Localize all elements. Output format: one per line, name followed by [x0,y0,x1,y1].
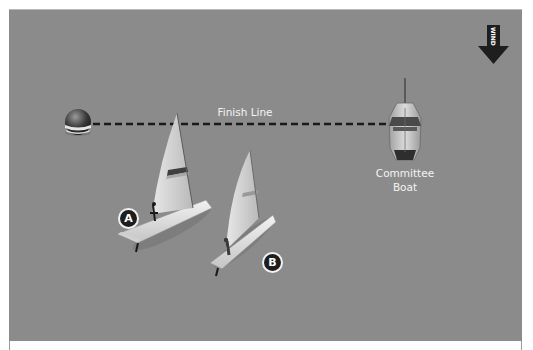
wind-label: WIND [486,26,500,46]
boat-b-badge: B [262,252,283,273]
buoy-icon [65,109,91,136]
race-scene [0,0,533,350]
finish-line-label: Finish Line [210,106,280,118]
committee-boat-label: Committee Boat [372,166,438,194]
committee-boat-label-line2: Boat [372,180,438,194]
boat-a-badge: A [118,208,139,229]
sailboat-a-icon [117,113,215,257]
committee-boat-icon [389,78,421,160]
committee-boat-label-line1: Committee [372,166,438,180]
